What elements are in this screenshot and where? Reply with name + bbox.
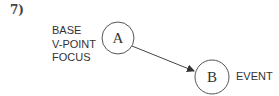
node-a-label: A [113,30,124,46]
node-b: B [195,60,229,94]
node-b-annotation-event: EVENT [236,70,273,82]
edge-a-to-b-arrow [132,46,194,71]
node-b-label: B [207,69,217,85]
node-a: A [102,22,134,54]
